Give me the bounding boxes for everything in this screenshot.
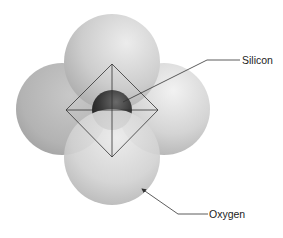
silicon-label: Silicon (242, 54, 273, 66)
silicon-oxygen-tetrahedron-diagram: Silicon Oxygen (0, 0, 283, 238)
oxygen-leader-line (142, 189, 208, 214)
oxygen-label: Oxygen (209, 208, 245, 220)
